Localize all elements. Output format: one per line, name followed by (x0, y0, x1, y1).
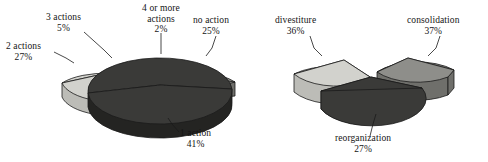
label-1-action: 1 action 41% (180, 128, 211, 149)
label-3-actions-pct: 5% (46, 23, 81, 34)
label-3-actions-name: 3 actions (46, 12, 81, 22)
label-4-or-more-actions-name: 4 or more actions (142, 3, 180, 24)
label-consolidation: consolidation 37% (407, 15, 460, 36)
label-no-action: no action 25% (193, 15, 229, 36)
slice-1-action (88, 58, 232, 138)
left-pie-chart: 3 actions 5% 4 or more actions 2% no act… (0, 0, 258, 162)
label-reorganization: reorganization 27% (335, 133, 391, 154)
two-pie-chart-figure: 3 actions 5% 4 or more actions 2% no act… (0, 0, 488, 162)
label-4-or-more-actions: 4 or more actions 2% (130, 3, 192, 35)
label-2-actions: 2 actions 27% (6, 41, 41, 62)
label-consolidation-pct: 37% (407, 26, 460, 37)
label-no-action-name: no action (193, 15, 229, 25)
label-divestiture-pct: 36% (275, 26, 316, 37)
label-no-action-pct: 25% (193, 26, 229, 37)
label-reorganization-name: reorganization (335, 133, 391, 143)
right-pie-chart: divestiture 36% consolidation 37% reorga… (258, 0, 488, 162)
label-divestiture-name: divestiture (275, 15, 316, 25)
label-2-actions-pct: 27% (6, 52, 41, 63)
label-3-actions: 3 actions 5% (46, 12, 81, 33)
label-consolidation-name: consolidation (407, 15, 460, 25)
label-reorganization-pct: 27% (335, 144, 391, 155)
label-1-action-name: 1 action (180, 128, 211, 138)
label-1-action-pct: 41% (180, 139, 211, 150)
label-2-actions-name: 2 actions (6, 41, 41, 51)
label-divestiture: divestiture 36% (275, 15, 316, 36)
label-4-or-more-actions-pct: 2% (130, 24, 192, 35)
